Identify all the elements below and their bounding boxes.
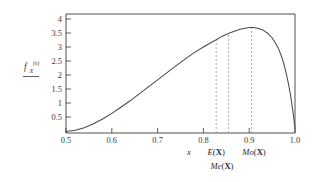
y-axis-label-subscript: X [29,67,34,74]
annotation-label-median: Me(X) [210,161,234,171]
x-tick-label-0-9: 0.9 [244,136,254,145]
annotation-label-expectation: E(X) [207,147,225,157]
y-tick-label-1: 1 [58,99,62,108]
annotation-mode-fn: Mo [241,147,254,157]
y-tick-label-3: 3 [58,43,62,52]
annotation-median-fn: Me [210,161,222,171]
x-tick-label-0-5: 0.5 [61,136,71,145]
x-tick-label-1-0: 1.0 [290,136,300,145]
chart-background [0,0,317,182]
x-tick-label-0-8: 0.8 [198,136,208,145]
x-tick-label-0-7: 0.7 [152,136,162,145]
y-tick-label-2: 2 [58,71,62,80]
density-plot-svg: f X (n) 4 3.5 3 2.5 2 1.5 1 [0,0,317,182]
chart-figure: f X (n) 4 3.5 3 2.5 2 1.5 1 [0,0,317,182]
y-tick-label-3-5: 3.5 [52,29,62,38]
y-tick-label-2-5: 2.5 [52,57,62,66]
y-tick-label-0-5: 0.5 [52,113,62,122]
annotation-labels-row-2: Me(X) [210,161,234,171]
y-tick-label-1-5: 1.5 [52,85,62,94]
y-axis-label-superscript: (n) [33,60,39,67]
x-tick-label-0-6: 0.6 [107,136,117,145]
x-symbol-label: x [186,147,191,157]
annotation-label-mode: Mo(X) [241,147,266,157]
